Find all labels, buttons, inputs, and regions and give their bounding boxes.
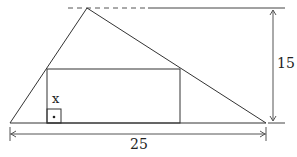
triangle-rectangle-diagram: x 15 25 xyxy=(0,0,297,157)
rect-height-label: x xyxy=(52,91,60,106)
base-value-label: 25 xyxy=(130,136,148,152)
height-value-label: 15 xyxy=(277,55,295,71)
triangle xyxy=(10,8,266,123)
inscribed-rectangle xyxy=(47,69,180,123)
right-angle-dot xyxy=(53,116,56,119)
